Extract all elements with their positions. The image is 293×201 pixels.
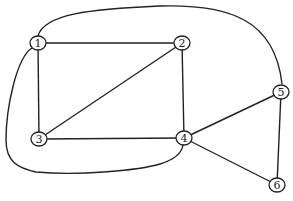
node-5: 5	[273, 85, 289, 99]
edge-2-3	[39, 43, 182, 139]
node-2: 2	[174, 36, 190, 50]
edge-4-5	[184, 92, 281, 138]
node-label: 2	[179, 37, 186, 50]
edge-3-4	[39, 138, 184, 139]
node-4: 4	[176, 131, 192, 145]
node-label: 5	[278, 86, 285, 99]
graph-diagram: 123456	[0, 0, 293, 201]
edge-4-6	[184, 138, 277, 185]
node-label: 4	[181, 132, 188, 145]
edges-group	[6, 6, 282, 185]
edge-1-5	[38, 6, 282, 84]
node-3: 3	[31, 132, 47, 146]
edge-5-6	[277, 92, 281, 185]
nodes-group: 123456	[30, 36, 289, 192]
edge-1-4	[6, 48, 183, 173]
node-1: 1	[30, 36, 46, 50]
node-label: 6	[274, 179, 281, 192]
node-label: 3	[36, 133, 43, 146]
node-6: 6	[269, 178, 285, 192]
edge-2-4	[182, 43, 184, 138]
edge-1-3	[38, 43, 39, 139]
node-label: 1	[35, 37, 42, 50]
